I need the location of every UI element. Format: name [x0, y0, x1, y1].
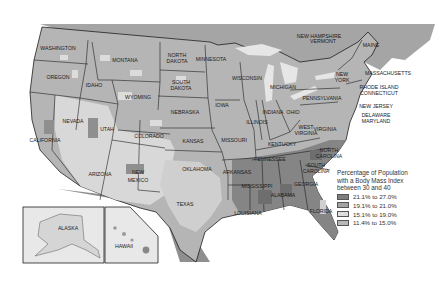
- legend-swatch: [337, 211, 349, 217]
- state-label: FLORIDA: [310, 208, 333, 214]
- state-label: NEBRASKA: [171, 109, 200, 115]
- state-label: TEXAS: [176, 201, 194, 207]
- state-label: TENNESSEE: [254, 156, 286, 162]
- legend-item-label: 19.1% to 21.0%: [353, 202, 397, 209]
- alaska-inset: [23, 207, 104, 263]
- state-label: WISCONSIN: [232, 75, 262, 81]
- state-label: OREGON: [46, 74, 69, 80]
- state-label: NEW: [132, 169, 144, 175]
- state-label: MAINE: [363, 42, 380, 48]
- legend-item: 11.4% to 15.0%: [337, 219, 437, 226]
- legend-title-line2: with a Body Mass Index: [337, 177, 437, 185]
- state-label: MARYLAND: [362, 118, 391, 124]
- state-label: DAKOTA: [167, 58, 188, 64]
- state-label: ILLINOIS: [246, 119, 268, 125]
- state-label: GEORGIA: [294, 181, 319, 187]
- state-label: OKLAHOMA: [182, 166, 212, 172]
- state-label: ALABAMA: [271, 192, 296, 198]
- state-label: MISSOURI: [221, 137, 247, 143]
- state-label: OHIO: [286, 109, 299, 115]
- state-label: MASSACHUSETTS: [365, 70, 412, 76]
- state-label: UTAH: [100, 126, 114, 132]
- legend-swatch: [337, 202, 349, 208]
- state-label: HAWAII: [115, 243, 133, 249]
- state-label: MICHIGAN: [270, 84, 296, 90]
- state-label: MEXICO: [128, 177, 148, 183]
- state-label: LOUISIANA: [234, 210, 262, 216]
- legend-item-label: 11.4% to 15.0%: [353, 219, 396, 226]
- legend-item-label: 15.1% to 19.0%: [353, 211, 397, 218]
- map-legend: Percentage of Population with a Body Mas…: [337, 169, 437, 226]
- legend-swatch: [337, 220, 349, 226]
- hawaii-inset: [105, 207, 158, 263]
- obesity-choropleth-map: WASHINGTONOREGONCALIFORNIANEVADAIDAHOMON…: [0, 0, 437, 281]
- state-label: COLORADO: [134, 133, 164, 139]
- state-label: INDIANA: [262, 109, 284, 115]
- state-label: ARKANSAS: [223, 169, 252, 175]
- state-label: CAROLINA: [303, 168, 330, 174]
- state-label: WASHINGTON: [40, 45, 76, 51]
- state-label: MONTANA: [112, 57, 138, 63]
- state-label: VIRGINIA: [314, 126, 337, 132]
- state-label: CONNECTICUT: [360, 90, 399, 96]
- state-label: IDAHO: [86, 82, 102, 88]
- state-label: ALASKA: [58, 225, 79, 231]
- legend-swatch: [337, 194, 349, 200]
- legend-item-label: 21.1% to 27.0%: [353, 193, 397, 200]
- state-label: PENNSYLVANIA: [302, 95, 342, 101]
- state-label: DAKOTA: [171, 85, 192, 91]
- state-label: VERMONT: [310, 38, 337, 44]
- legend-title-line3: between 30 and 40: [337, 184, 437, 192]
- legend-item: 19.1% to 21.0%: [337, 202, 437, 209]
- state-label: ARIZONA: [88, 171, 112, 177]
- state-label: MINNESOTA: [196, 56, 227, 62]
- state-label: NEW JERSEY: [359, 103, 393, 109]
- state-label: YORK: [335, 77, 350, 83]
- state-label: KENTUCKY: [268, 141, 297, 147]
- state-label: KANSAS: [182, 138, 204, 144]
- state-label: IOWA: [215, 102, 229, 108]
- legend-title-line1: Percentage of Population: [337, 169, 437, 177]
- state-label: MISSISSIPPI: [242, 183, 273, 189]
- legend-item: 21.1% to 27.0%: [337, 193, 437, 200]
- state-label: NEVADA: [63, 118, 84, 124]
- state-label: CAROLINA: [316, 153, 343, 159]
- state-label: CALIFORNIA: [29, 137, 61, 143]
- state-label: WYOMING: [125, 94, 151, 100]
- legend-item: 15.1% to 19.0%: [337, 211, 437, 218]
